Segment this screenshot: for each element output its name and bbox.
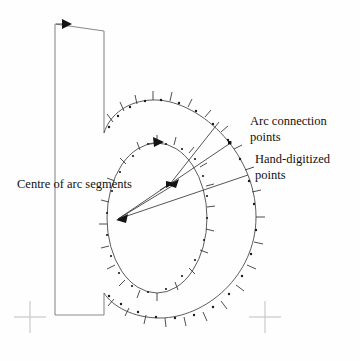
diagram-canvas: Arc connection points Hand-digitized poi…	[0, 0, 360, 361]
figure-container: Arc connection points Hand-digitized poi…	[0, 0, 360, 361]
outer-contour-ticks	[107, 91, 265, 327]
registration-left-icon	[14, 301, 46, 333]
glyph-stem	[55, 24, 104, 315]
direction-arrow-outer-icon	[56, 19, 72, 29]
direction-arrow-inner-icon	[147, 137, 164, 147]
label-hand-digitized-line1: Hand-digitized	[255, 152, 331, 166]
centre-arrow-lower-icon	[116, 214, 128, 223]
registration-right-icon	[249, 301, 281, 333]
inner-contour-ticks	[99, 135, 215, 301]
label-hand-digitized-line2: points	[255, 168, 286, 182]
label-arc-connection-line2: points	[250, 130, 281, 144]
arc-connection-marker-icon	[228, 141, 231, 144]
label-arc-connection-line1: Arc connection	[250, 114, 327, 128]
arc-radial-lines	[118, 122, 248, 219]
outer-contour-points	[108, 99, 257, 319]
label-centre-of-arc-segments: Centre of arc segments	[17, 177, 132, 191]
